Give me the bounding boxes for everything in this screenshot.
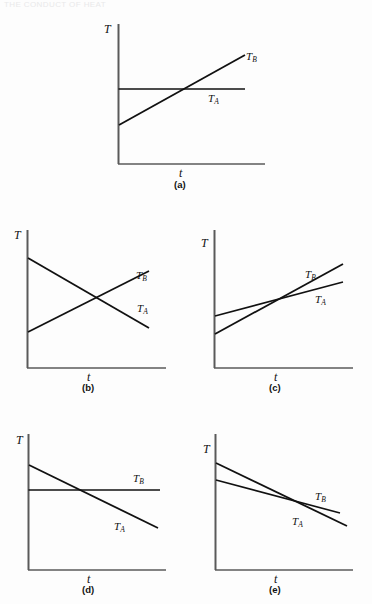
panel-caption-d: (d)	[82, 584, 94, 595]
y-axis-label-c: T	[201, 237, 208, 249]
figure-c-plot	[201, 226, 371, 396]
curve-label-a-TB: TB	[246, 51, 257, 62]
figure-a-plot	[105, 18, 270, 193]
faint-running-header: THE CONDUCT OF HEAT	[4, 0, 106, 9]
figure-c: T t TB TA (c)	[201, 226, 371, 396]
figure-d-plot	[14, 430, 184, 598]
curve-label-e-TB: TB	[315, 491, 326, 502]
x-axis-label-a: t	[179, 167, 182, 179]
curve-e-TA	[216, 463, 347, 526]
figure-d: T t TB TA (d)	[14, 430, 184, 598]
curve-label-c-TB: TB	[305, 269, 316, 280]
curve-b-TB	[28, 271, 149, 332]
curve-b-TA	[28, 258, 149, 328]
curve-label-a-TA: TA	[208, 93, 219, 104]
curve-label-d-TA: TA	[114, 521, 125, 532]
figure-a: T t TB TA (a)	[105, 18, 270, 193]
curve-a-TB	[119, 55, 245, 125]
y-axis-label-a: T	[104, 23, 111, 35]
curve-label-d-TB: TB	[133, 473, 144, 484]
y-axis-label-e: T	[203, 443, 210, 455]
curve-label-e-TA: TA	[292, 516, 303, 527]
figure-b-plot	[14, 226, 184, 396]
y-axis-label-b: T	[14, 229, 21, 241]
curve-label-c-TA: TA	[315, 294, 326, 305]
panel-caption-a: (a)	[174, 179, 186, 190]
figure-e: T t TB TA (e)	[201, 430, 371, 598]
y-axis-label-d: T	[16, 434, 23, 446]
figure-e-plot	[201, 430, 371, 598]
panel-caption-e: (e)	[269, 584, 281, 595]
figure-page: THE CONDUCT OF HEAT T t TB TA (a) T t TB	[0, 0, 372, 604]
figure-b: T t TB TA (b)	[14, 226, 184, 396]
curve-label-b-TA: TA	[137, 303, 148, 314]
panel-caption-b: (b)	[82, 382, 94, 393]
panel-caption-c: (c)	[269, 382, 281, 393]
curve-label-b-TB: TB	[136, 270, 147, 281]
